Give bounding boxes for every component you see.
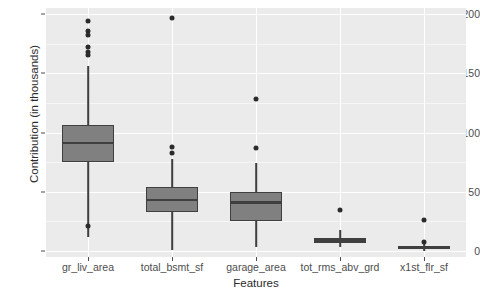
median-line <box>314 239 366 241</box>
plot-panel <box>46 8 466 257</box>
median-line <box>230 201 282 203</box>
y-tick-mark <box>41 73 45 74</box>
y-axis-title: Contribution (in thousands) <box>28 0 40 234</box>
x-tick-mark <box>340 257 341 261</box>
box-iqr <box>230 192 282 222</box>
outlier-point <box>254 97 259 102</box>
outlier-point <box>170 144 175 149</box>
outlier-point <box>86 53 91 58</box>
median-line <box>398 247 450 249</box>
outlier-point <box>338 207 343 212</box>
boxplot-figure: Contribution (in thousands) Features 050… <box>0 0 480 296</box>
y-tick-mark <box>41 132 45 133</box>
outlier-point <box>254 145 259 150</box>
x-tick-mark <box>88 257 89 261</box>
outlier-point <box>86 224 91 229</box>
boxplot-tot_rms_abv_grd <box>314 8 366 257</box>
y-tick-mark <box>41 251 45 252</box>
x-tick-label-gr_liv_area: gr_liv_area <box>62 261 114 273</box>
x-tick-label-total_bsmt_sf: total_bsmt_sf <box>141 261 203 273</box>
boxplot-total_bsmt_sf <box>146 8 198 257</box>
x-axis-title: Features <box>46 277 466 289</box>
outlier-point <box>86 33 91 38</box>
outlier-point <box>422 218 427 223</box>
outlier-point <box>170 150 175 155</box>
boxplot-gr_liv_area <box>62 8 114 257</box>
y-tick-mark <box>41 13 45 14</box>
y-tick-mark <box>41 191 45 192</box>
x-tick-label-garage_area: garage_area <box>226 261 286 273</box>
boxplot-x1st_flr_sf <box>398 8 450 257</box>
x-tick-label-tot_rms_abv_grd: tot_rms_abv_grd <box>301 261 380 273</box>
x-tick-mark <box>424 257 425 261</box>
boxplot-garage_area <box>230 8 282 257</box>
median-line <box>146 199 198 201</box>
outlier-point <box>422 239 427 244</box>
median-line <box>62 142 114 144</box>
outlier-point <box>86 19 91 24</box>
outlier-point <box>170 15 175 20</box>
x-tick-mark <box>256 257 257 261</box>
x-tick-mark <box>172 257 173 261</box>
x-tick-label-x1st_flr_sf: x1st_flr_sf <box>400 261 448 273</box>
